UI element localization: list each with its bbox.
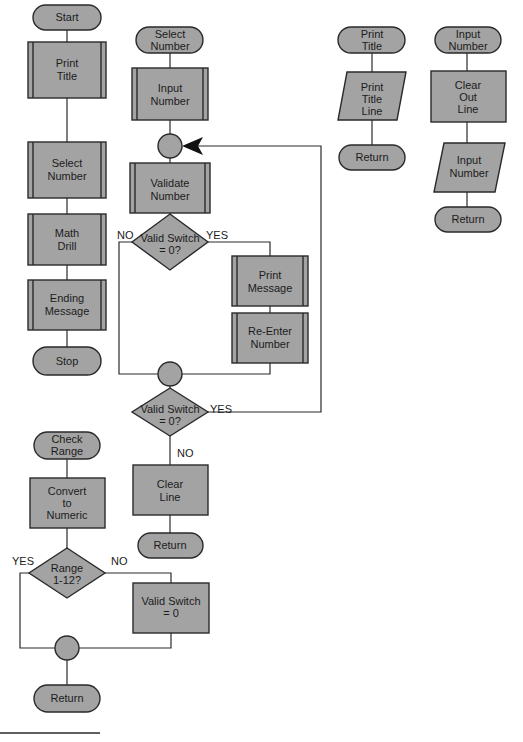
svg-text:Number: Number (47, 170, 86, 182)
svg-text:Valid Switch: Valid Switch (140, 232, 199, 244)
branch-label-yes: YES (206, 229, 228, 241)
decision-valid-switch-1[interactable]: Valid Switch = 0? (132, 214, 208, 270)
svg-text:Select: Select (155, 28, 186, 40)
io-input-number[interactable]: Input Number (434, 143, 505, 192)
svg-text:Numeric: Numeric (47, 509, 88, 521)
svg-text:Clear: Clear (157, 478, 184, 490)
svg-text:Ending: Ending (50, 292, 84, 304)
process-validate-number[interactable]: Validate Number (130, 163, 210, 213)
svg-text:Print: Print (259, 269, 282, 281)
decision-range[interactable]: Range 1-12? (29, 548, 105, 598)
process-math-drill[interactable]: Math Drill (28, 214, 106, 265)
svg-text:Convert: Convert (48, 485, 87, 497)
terminator-return[interactable]: Return (339, 145, 405, 170)
svg-text:Input: Input (457, 154, 481, 166)
process-select-number[interactable]: Select Number (28, 142, 106, 198)
svg-text:Title: Title (362, 40, 382, 52)
svg-text:Select: Select (52, 157, 83, 169)
svg-text:1-12?: 1-12? (53, 574, 81, 586)
svg-text:Line: Line (160, 491, 181, 503)
svg-text:Title: Title (57, 70, 77, 82)
terminator-print-title[interactable]: Print Title (338, 27, 405, 53)
terminator-return[interactable]: Return (34, 685, 100, 712)
process-ending-message[interactable]: Ending Message (28, 280, 106, 330)
process-print-title[interactable]: Print Title (28, 42, 106, 98)
flowchart-canvas: Start Print Title Select Number Math Dri… (0, 0, 523, 742)
svg-text:Number: Number (150, 40, 189, 52)
terminator-check-range[interactable]: Check Range (34, 432, 100, 459)
svg-text:Re-Enter: Re-Enter (248, 325, 292, 337)
svg-text:Return: Return (451, 213, 484, 225)
svg-text:Number: Number (150, 95, 189, 107)
svg-text:Validate: Validate (151, 177, 190, 189)
branch-label-no: NO (117, 229, 134, 241)
svg-text:Stop: Stop (56, 355, 79, 367)
process-clear-out-line[interactable]: Clear Out Line (431, 71, 506, 122)
terminator-return[interactable]: Return (138, 533, 203, 558)
svg-text:Number: Number (449, 167, 488, 179)
svg-text:Input: Input (456, 28, 480, 40)
svg-text:Return: Return (355, 151, 388, 163)
process-input-number[interactable]: Input Number (132, 68, 208, 120)
io-print-title-line[interactable]: Print Title Line (338, 72, 406, 120)
svg-text:Math: Math (55, 227, 79, 239)
svg-text:Number: Number (150, 190, 189, 202)
svg-text:Valid Switch: Valid Switch (140, 403, 199, 415)
process-convert-to-numeric[interactable]: Convert to Numeric (30, 478, 105, 528)
terminator-stop[interactable]: Stop (33, 347, 101, 375)
terminator-return[interactable]: Return (435, 207, 501, 232)
branch-label-no: NO (111, 555, 128, 567)
svg-text:Range: Range (51, 562, 83, 574)
svg-text:Valid Switch: Valid Switch (141, 595, 200, 607)
svg-text:= 0?: = 0? (159, 244, 181, 256)
connector-circle (158, 134, 182, 158)
svg-text:Print: Print (361, 28, 384, 40)
svg-text:= 0?: = 0? (159, 415, 181, 427)
decision-valid-switch-2[interactable]: Valid Switch = 0? (132, 388, 208, 436)
branch-label-yes: YES (210, 403, 232, 415)
connector-circle (55, 636, 79, 660)
svg-text:Line: Line (362, 105, 383, 117)
svg-text:Out: Out (459, 91, 477, 103)
svg-text:Drill: Drill (58, 240, 77, 252)
process-reenter-number[interactable]: Re-Enter Number (232, 313, 308, 363)
svg-text:Number: Number (448, 40, 487, 52)
svg-text:Message: Message (45, 305, 90, 317)
svg-text:Return: Return (50, 692, 83, 704)
svg-text:Clear: Clear (455, 79, 482, 91)
svg-text:Input: Input (158, 82, 182, 94)
branch-label-yes: YES (12, 555, 34, 567)
svg-text:Number: Number (250, 338, 289, 350)
connector-circle (158, 362, 182, 386)
svg-text:Message: Message (248, 282, 293, 294)
svg-text:Line: Line (458, 103, 479, 115)
svg-text:Print: Print (361, 81, 384, 93)
process-clear-line[interactable]: Clear Line (133, 465, 208, 515)
svg-text:Return: Return (153, 539, 186, 551)
svg-text:Range: Range (51, 445, 83, 457)
svg-text:to: to (62, 497, 71, 509)
terminator-input-number[interactable]: Input Number (435, 27, 501, 53)
branch-label-no: NO (177, 447, 194, 459)
svg-text:Title: Title (362, 93, 382, 105)
svg-text:Print: Print (56, 57, 79, 69)
terminator-start-label: Start (55, 11, 78, 23)
terminator-select-number[interactable]: Select Number (136, 27, 203, 53)
process-print-message[interactable]: Print Message (232, 256, 308, 306)
svg-text:= 0: = 0 (163, 607, 179, 619)
terminator-start[interactable]: Start (33, 5, 101, 30)
process-valid-switch[interactable]: Valid Switch = 0 (133, 583, 209, 633)
svg-text:Check: Check (51, 433, 83, 445)
